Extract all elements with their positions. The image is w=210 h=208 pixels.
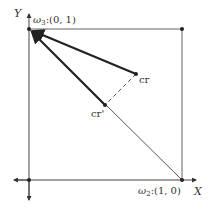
omega3-label: ω3:(0, 1)	[33, 14, 76, 27]
cr-prime-dot	[103, 103, 107, 107]
omega3-dot	[27, 27, 31, 31]
cr-dot	[134, 72, 138, 76]
cr-prime-label: cr'	[91, 108, 104, 119]
y-axis-label: Y	[14, 7, 23, 20]
origin-dot	[27, 178, 31, 182]
cr-label: cr	[139, 74, 150, 85]
arrow-from-cr-prime	[32, 32, 105, 105]
diagram: Y X ω3:(0, 1) ω2:(1, 0) cr cr'	[0, 0, 210, 208]
corner-dot	[180, 27, 184, 31]
arrow-from-cr	[33, 31, 136, 74]
omega2-label: ω2:(1, 0)	[138, 185, 181, 198]
projection-dashed-line	[105, 74, 136, 105]
omega2-dot	[180, 178, 184, 182]
x-axis-label: X	[193, 185, 203, 198]
